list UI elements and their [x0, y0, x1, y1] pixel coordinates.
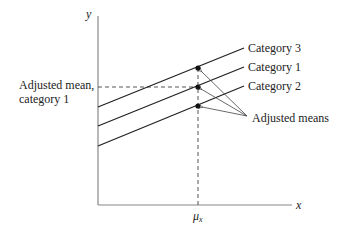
y-axis-label: y [85, 7, 92, 21]
line-category-1 [98, 67, 244, 126]
adjusted-means-label: Adjusted means [252, 111, 329, 125]
x-tick-label: μx [192, 209, 203, 224]
arrow-to-category-2 [202, 107, 247, 116]
point-category-1 [195, 84, 200, 89]
x-axis-label: x [295, 198, 302, 212]
point-category-2 [195, 103, 200, 108]
point-category-3 [195, 65, 200, 70]
label-category-3: Category 3 [248, 41, 301, 55]
line-category-3 [98, 48, 244, 107]
label-category-1: Category 1 [248, 60, 301, 74]
label-category-2: Category 2 [248, 79, 301, 93]
line-category-2 [98, 86, 244, 146]
adjusted-mean-label: Adjusted mean, category 1 [19, 78, 97, 106]
ancova-diagram: y x μx Adjusted mean, category 1 Categor… [0, 0, 348, 233]
